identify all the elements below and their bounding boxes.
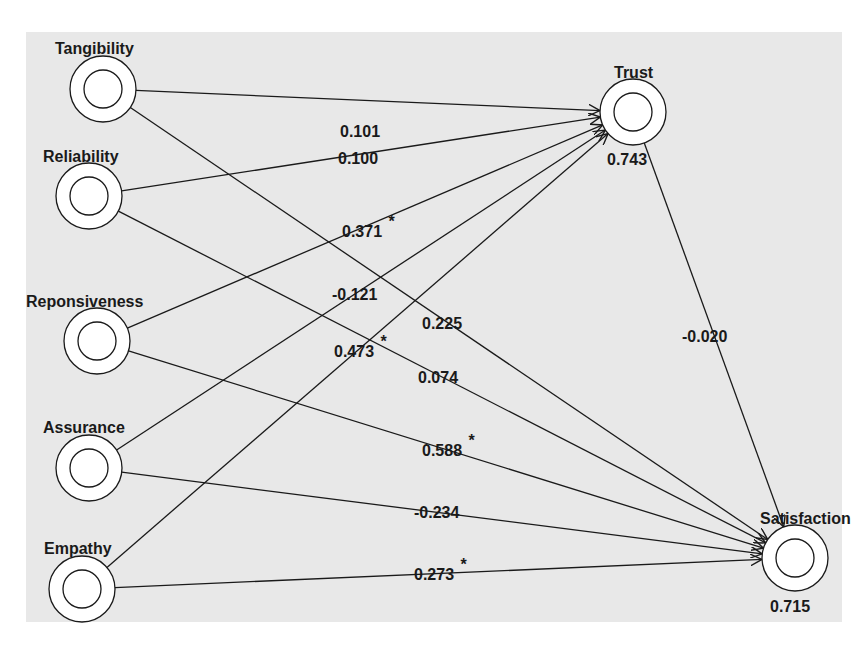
- r-squared-satisfaction: 0.715: [770, 598, 810, 615]
- latent-variable-inner-ring-icon: [84, 70, 122, 108]
- node-label-responsiveness: Reponsiveness: [26, 293, 143, 310]
- path-diagram: 0.1010.1000.371*-0.1210.473*0.2250.0740.…: [0, 0, 866, 646]
- node-label-reliability: Reliability: [43, 148, 119, 165]
- latent-variable-inner-ring-icon: [614, 93, 652, 131]
- latent-variable-inner-ring-icon: [70, 449, 108, 487]
- node-assurance[interactable]: [56, 435, 122, 501]
- node-label-assurance: Assurance: [43, 419, 125, 436]
- coefficient-reliability-to-satisfaction: 0.074: [418, 369, 458, 386]
- latent-variable-inner-ring-icon: [70, 177, 108, 215]
- node-responsiveness[interactable]: [64, 308, 130, 374]
- r-squared-trust: 0.743: [607, 151, 647, 168]
- node-label-trust: Trust: [614, 64, 654, 81]
- significance-marker: *: [469, 432, 476, 449]
- significance-marker: *: [381, 333, 388, 350]
- coefficient-trust-to-satisfaction: -0.020: [682, 328, 727, 345]
- coefficient-reliability-to-trust: 0.100: [338, 150, 378, 167]
- node-empathy[interactable]: [49, 556, 115, 622]
- latent-variable-inner-ring-icon: [63, 570, 101, 608]
- node-trust[interactable]: [600, 79, 666, 145]
- latent-variable-inner-ring-icon: [776, 539, 814, 577]
- coefficient-responsiveness-to-trust: 0.371: [342, 223, 382, 240]
- significance-marker: *: [461, 556, 468, 573]
- labels-layer: 0.1010.1000.371*-0.1210.473*0.2250.0740.…: [26, 40, 851, 615]
- node-tangibility[interactable]: [70, 56, 136, 122]
- coefficient-assurance-to-satisfaction: -0.234: [414, 504, 459, 521]
- latent-variable-inner-ring-icon: [78, 322, 116, 360]
- coefficient-assurance-to-trust: -0.121: [332, 286, 377, 303]
- node-satisfaction[interactable]: [762, 525, 828, 591]
- coefficient-empathy-to-trust: 0.473: [334, 343, 374, 360]
- coefficient-tangibility-to-trust: 0.101: [340, 123, 380, 140]
- coefficient-responsiveness-to-satisfaction: 0.588: [422, 442, 462, 459]
- node-label-empathy: Empathy: [44, 540, 112, 557]
- coefficient-tangibility-to-satisfaction: 0.225: [422, 315, 462, 332]
- node-label-tangibility: Tangibility: [55, 40, 134, 57]
- node-label-satisfaction: Satisfaction: [760, 510, 851, 527]
- node-reliability[interactable]: [56, 163, 122, 229]
- path-tangibility-to-trust: [136, 90, 600, 110]
- coefficient-empathy-to-satisfaction: 0.273: [414, 566, 454, 583]
- significance-marker: *: [389, 213, 396, 230]
